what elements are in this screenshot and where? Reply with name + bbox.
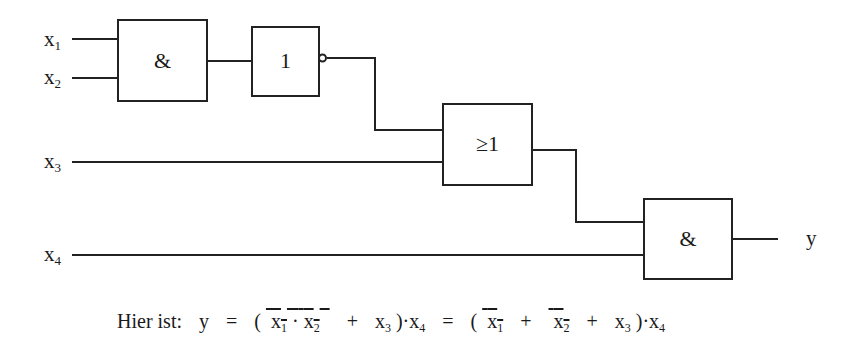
input-label-x4: x4 bbox=[44, 244, 61, 267]
not-gate-symbol: 1 bbox=[252, 50, 319, 72]
negated-x1: x1 bbox=[482, 310, 503, 332]
negated-product: x1 · x2 bbox=[266, 310, 330, 332]
input-label-x3: x3 bbox=[44, 151, 61, 174]
output-label-y: y bbox=[806, 228, 817, 249]
and-gate-1-symbol: & bbox=[118, 50, 207, 72]
wire-not-or bbox=[327, 58, 443, 130]
formula-prefix: Hier ist: bbox=[117, 310, 182, 332]
negation-bubble bbox=[319, 55, 326, 62]
input-label-x1: x1 bbox=[44, 29, 61, 52]
or-gate-symbol: ≥1 bbox=[443, 133, 532, 155]
negated-x2: x2 bbox=[548, 310, 569, 332]
input-label-x2: x2 bbox=[44, 67, 61, 90]
formula: Hier ist: y = ( x1 · x2 + x3 )·x4 = ( x1… bbox=[117, 311, 665, 334]
and-gate-2-symbol: & bbox=[644, 228, 732, 250]
wire-or-and2 bbox=[532, 150, 644, 222]
